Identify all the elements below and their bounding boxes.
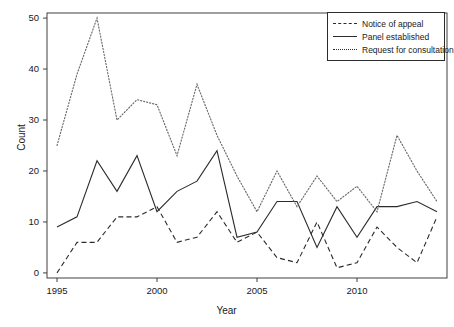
y-axis-title: Count: [16, 108, 27, 168]
x-tick-label: 2010: [337, 285, 377, 296]
legend-item-notice-of-appeal: Notice of appeal: [332, 17, 439, 30]
y-tick-label: 10: [5, 216, 39, 227]
legend-label: Request for consultation: [362, 44, 454, 56]
y-tick-label: 0: [5, 267, 39, 278]
legend-item-request-for-consultation: Request for consultation: [332, 43, 439, 56]
dotted-line-key: [332, 44, 358, 56]
chart-legend: Notice of appeal Panel established Reque…: [327, 12, 445, 61]
y-tick-label: 50: [5, 12, 39, 23]
x-tick-label: 2000: [137, 285, 177, 296]
y-tick-label: 40: [5, 63, 39, 74]
legend-label: Notice of appeal: [362, 18, 423, 30]
solid-line-key: [332, 31, 358, 43]
legend-item-panel-established: Panel established: [332, 30, 439, 43]
x-tick-label: 1995: [37, 285, 77, 296]
series-line: [57, 207, 437, 273]
legend-label: Panel established: [362, 31, 429, 43]
x-axis-title: Year: [0, 305, 453, 316]
x-tick-label: 2005: [237, 285, 277, 296]
dashed-line-key: [332, 18, 358, 30]
